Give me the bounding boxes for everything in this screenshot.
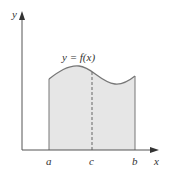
area-under-curve-diagram: y x y = f(x) a c b xyxy=(0,0,173,175)
y-axis-label: y xyxy=(11,8,17,20)
point-b-label: b xyxy=(132,155,138,167)
x-axis-arrow-icon xyxy=(150,147,159,153)
curve-label: y = f(x) xyxy=(61,51,95,64)
point-a-label: a xyxy=(46,155,52,167)
y-axis-arrow-icon xyxy=(19,11,25,20)
point-c-label: c xyxy=(89,155,94,167)
x-axis-label: x xyxy=(153,155,159,167)
